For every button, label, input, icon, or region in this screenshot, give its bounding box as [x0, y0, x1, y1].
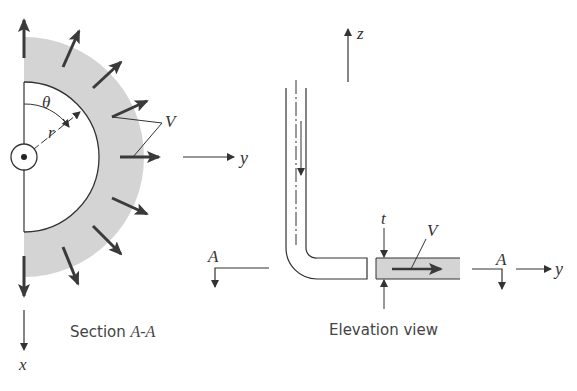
section-cut-marker-left — [215, 268, 269, 287]
v-label-elevation: V — [427, 222, 437, 239]
t-label: t — [381, 210, 386, 227]
z-label: z — [357, 25, 364, 42]
pipe-elbow — [286, 88, 367, 279]
y-label-elevation: y — [555, 260, 563, 278]
section-a-a-caption: Section A-A — [70, 324, 155, 340]
section-cut-marker-right — [472, 269, 502, 289]
y-label-section: y — [240, 149, 248, 167]
elevation-view-caption: Elevation view — [329, 323, 438, 338]
section-a-label-left: A — [208, 248, 218, 265]
figure-canvas: θ r V y x Section A-A z t V A A y Elevat… — [0, 0, 577, 391]
section-a-a-view — [11, 20, 234, 350]
x-label: x — [19, 356, 27, 373]
section-a-label-right: A — [496, 251, 506, 268]
r-label: r — [48, 124, 55, 141]
theta-label: θ — [42, 94, 50, 111]
v-label-section: V — [165, 113, 175, 130]
